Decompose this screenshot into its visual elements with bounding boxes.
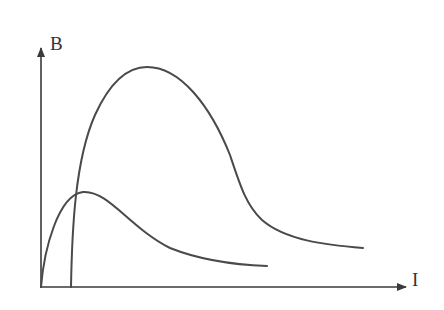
x-axis-label: I xyxy=(412,269,418,290)
large-curve xyxy=(71,67,363,287)
y-axis-label: B xyxy=(50,33,63,54)
b-vs-i-diagram: B I xyxy=(0,0,444,310)
